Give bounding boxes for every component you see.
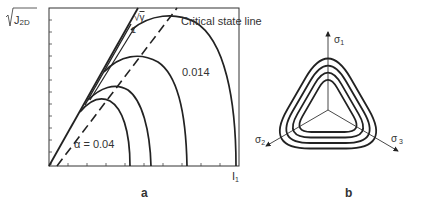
yield-surface-3	[104, 56, 187, 166]
caption-b: b	[345, 186, 352, 200]
slope-label-gamma: √γ	[134, 12, 145, 23]
sigma1-label: σ1	[334, 34, 344, 46]
y-axis-label: J2D	[6, 8, 37, 27]
x-axis-label: I1	[232, 170, 239, 183]
envelope-line-mid	[85, 24, 131, 105]
sigma2-label: σ2	[255, 134, 265, 146]
yield-surface-2	[88, 86, 151, 166]
caption-a: a	[141, 186, 148, 200]
figure: J2D I1 √γ 1 Critical state line α = 0.04…	[0, 0, 423, 208]
slope-label-one: 1	[131, 25, 136, 35]
critical-state-label: Critical state line	[181, 15, 262, 27]
sigma3-label: σ 3	[391, 133, 403, 145]
yield-surface-alpha-0.014	[131, 16, 236, 166]
alpha-label: α = 0.04	[74, 138, 114, 150]
yield-surface-alpha-0.04	[80, 99, 130, 166]
panel-a: J2D I1 √γ 1 Critical state line α = 0.04…	[6, 8, 262, 200]
y-axis-label-text: J2D	[14, 14, 30, 27]
curve-label-0.014: 0.014	[182, 66, 210, 78]
panel-b: σ1 σ2 σ 3 b	[255, 32, 403, 200]
